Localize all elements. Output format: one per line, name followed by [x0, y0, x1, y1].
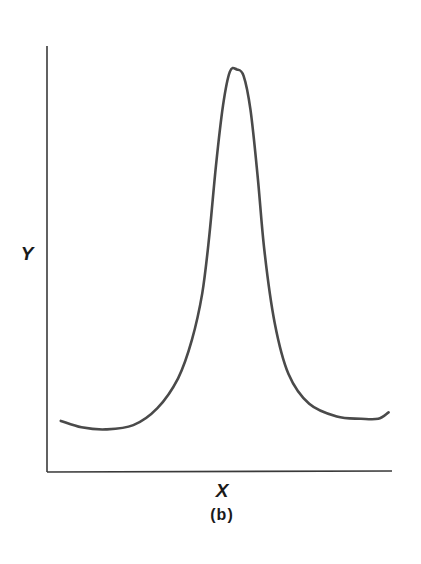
x-axis-label: X — [216, 480, 229, 502]
chart — [0, 0, 421, 564]
data-curve — [61, 68, 389, 430]
y-axis-label: Y — [21, 243, 34, 265]
x-axis — [47, 471, 392, 472]
figure-caption: (b) — [210, 506, 233, 524]
